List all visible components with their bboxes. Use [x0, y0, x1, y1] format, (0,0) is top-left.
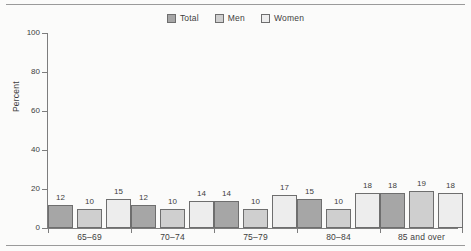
bar-total[interactable]: 15 [297, 33, 322, 228]
bar-rect[interactable] [189, 201, 214, 228]
bar-rect[interactable] [409, 191, 434, 228]
chart-legend: TotalMenWomen [0, 14, 471, 23]
bar-rect[interactable] [272, 195, 297, 228]
x-axis-category-label: 65–69 [48, 232, 131, 242]
bar-men[interactable]: 10 [77, 33, 102, 228]
bar-women[interactable]: 18 [438, 33, 463, 228]
bar-group: 12101565–69 [48, 33, 131, 228]
y-axis-tick-label: 40 [31, 146, 40, 154]
bar-rect[interactable] [48, 205, 73, 228]
bar-group: 12101470–74 [131, 33, 214, 228]
legend-swatch-icon [167, 14, 176, 23]
top-rule [6, 4, 465, 5]
bar-men[interactable]: 10 [160, 33, 185, 228]
bar-value-label: 18 [388, 182, 397, 190]
bar-value-label: 12 [56, 194, 65, 202]
bar-value-label: 10 [334, 198, 343, 206]
bar-value-label: 19 [417, 180, 426, 188]
y-axis-tick-label: 20 [31, 185, 40, 193]
bar-value-label: 14 [222, 190, 231, 198]
legend-swatch-icon [261, 14, 270, 23]
y-axis-label: Percent [11, 81, 21, 112]
bar-value-label: 15 [305, 188, 314, 196]
chart-figure: TotalMenWomen 020406080100 12101565–6912… [0, 0, 471, 251]
legend-label: Men [228, 14, 245, 23]
bar-rect[interactable] [77, 209, 102, 229]
bar-group: 14101775–79 [214, 33, 297, 228]
bar-total[interactable]: 12 [131, 33, 156, 228]
bar-women[interactable]: 14 [189, 33, 214, 228]
bar-value-label: 10 [168, 198, 177, 206]
legend-label: Women [274, 14, 304, 23]
legend-item-men[interactable]: Men [215, 14, 245, 23]
bar-men[interactable]: 10 [326, 33, 351, 228]
bar-rect[interactable] [438, 193, 463, 228]
bar-rect[interactable] [326, 209, 351, 229]
bar-rect[interactable] [355, 193, 380, 228]
bar-value-label: 14 [197, 190, 206, 198]
bar-value-label: 12 [139, 194, 148, 202]
y-axis-tick [42, 150, 47, 151]
bar-rect[interactable] [214, 201, 239, 228]
bar-rect[interactable] [243, 209, 268, 229]
y-axis-tick [42, 33, 47, 34]
bar-rect[interactable] [380, 193, 405, 228]
bottom-rule [6, 245, 465, 246]
x-axis-category-label: 70–74 [131, 232, 214, 242]
bar-group: 15101880–84 [297, 33, 380, 228]
bar-total[interactable]: 18 [380, 33, 405, 228]
bar-value-label: 10 [251, 198, 260, 206]
bar-rect[interactable] [297, 199, 322, 228]
y-axis-tick-label: 0 [36, 224, 40, 232]
x-axis-line [47, 228, 458, 229]
bar-group: 18191885 and over [380, 33, 463, 228]
y-axis-tick [42, 189, 47, 190]
bar-value-label: 18 [446, 182, 455, 190]
y-axis-tick-label: 100 [27, 29, 40, 37]
bar-rect[interactable] [131, 205, 156, 228]
bar-women[interactable]: 18 [355, 33, 380, 228]
legend-item-women[interactable]: Women [261, 14, 304, 23]
x-axis-category-label: 75–79 [214, 232, 297, 242]
bar-groups: 12101565–6912101470–7414101775–791510188… [48, 33, 458, 228]
bar-rect[interactable] [106, 199, 131, 228]
bar-total[interactable]: 12 [48, 33, 73, 228]
legend-swatch-icon [215, 14, 224, 23]
bar-rect[interactable] [160, 209, 185, 229]
y-axis-tick [42, 72, 47, 73]
legend-item-total[interactable]: Total [167, 14, 199, 23]
bar-value-label: 10 [85, 198, 94, 206]
bar-value-label: 15 [114, 188, 123, 196]
x-axis-category-label: 85 and over [380, 232, 463, 242]
y-axis-tick-label: 60 [31, 107, 40, 115]
y-axis-tick [42, 111, 47, 112]
y-axis-tick [42, 228, 47, 229]
legend-label: Total [180, 14, 199, 23]
bar-women[interactable]: 17 [272, 33, 297, 228]
plot-area: 020406080100 12101565–6912101470–7414101… [47, 33, 458, 228]
x-axis-category-label: 80–84 [297, 232, 380, 242]
bar-value-label: 18 [363, 182, 372, 190]
bar-women[interactable]: 15 [106, 33, 131, 228]
bar-men[interactable]: 10 [243, 33, 268, 228]
y-axis-tick-label: 80 [31, 68, 40, 76]
bar-total[interactable]: 14 [214, 33, 239, 228]
bar-men[interactable]: 19 [409, 33, 434, 228]
bar-value-label: 17 [280, 184, 289, 192]
